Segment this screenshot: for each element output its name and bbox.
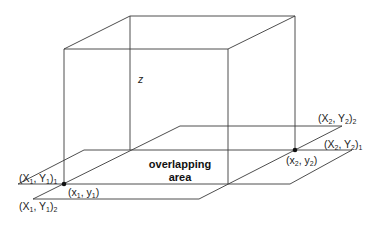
corner-label-X2Y2-1: (X2, Y2)1 [324, 138, 362, 151]
box-top-face [64, 16, 295, 49]
corner-label-X2Y2-2: (X2, Y2)2 [318, 112, 356, 125]
point-label-x2y2: (x2, y2) [286, 154, 317, 167]
point-x2y2-dot [293, 148, 298, 153]
overlap-label-line1: overlapping [149, 158, 211, 170]
corner-label-X1Y1-1: (X1, Y1)1 [19, 172, 57, 185]
diagram-canvas: z overlapping area (X1, Y1)1 (x1, y1) (X… [0, 0, 379, 226]
point-x1y1-dot [62, 182, 67, 187]
z-axis-label: z [137, 73, 144, 85]
overlap-label-line2: area [169, 171, 193, 183]
corner-label-X1Y1-2: (X1, Y1)2 [19, 200, 57, 213]
point-label-x1y1: (x1, y1) [68, 186, 99, 199]
